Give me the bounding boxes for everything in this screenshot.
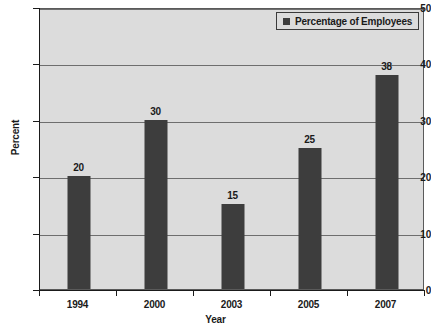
y-tick-mark <box>33 64 39 65</box>
y-axis-title: Percent <box>10 103 21 173</box>
y-tick-label: 0 <box>400 285 431 296</box>
x-tick-mark <box>39 291 40 296</box>
legend-label: Percentage of Employees <box>295 16 412 27</box>
bar-value-label: 20 <box>73 162 84 173</box>
bar[interactable] <box>67 176 90 289</box>
x-tick-label: 2005 <box>279 299 339 310</box>
bar-group: 38 <box>348 9 425 289</box>
bar[interactable] <box>221 204 244 289</box>
bar-value-label: 25 <box>304 134 315 145</box>
chart-legend: Percentage of Employees <box>276 12 419 30</box>
x-tick-label: 2007 <box>356 299 416 310</box>
y-tick-mark <box>33 177 39 178</box>
plot-area: 2030152538 <box>39 8 424 290</box>
bar[interactable] <box>144 120 167 289</box>
y-tick-mark <box>33 121 39 122</box>
x-tick-mark <box>424 291 425 296</box>
bars-layer: 2030152538 <box>40 9 423 289</box>
x-axis-line <box>39 290 425 291</box>
legend-swatch-icon <box>283 18 290 25</box>
x-tick-label: 2000 <box>125 299 185 310</box>
bar-chart: 2030152538 01020304050 Percent 199420002… <box>0 0 431 331</box>
x-tick-mark <box>116 291 117 296</box>
x-tick-label: 1994 <box>48 299 108 310</box>
bar-group: 15 <box>194 9 271 289</box>
bar-value-label: 30 <box>150 106 161 117</box>
bar[interactable] <box>375 75 398 289</box>
y-axis-line <box>39 8 40 291</box>
y-tick-label: 10 <box>400 228 431 239</box>
bar-group: 25 <box>271 9 348 289</box>
x-tick-mark <box>347 291 348 296</box>
y-tick-label: 40 <box>400 59 431 70</box>
bar-group: 20 <box>40 9 117 289</box>
y-tick-label: 20 <box>400 172 431 183</box>
bar[interactable] <box>298 148 321 289</box>
bar-value-label: 15 <box>227 190 238 201</box>
x-tick-mark <box>193 291 194 296</box>
bar-value-label: 38 <box>381 61 392 72</box>
x-tick-label: 2003 <box>202 299 262 310</box>
x-axis-title: Year <box>0 314 431 325</box>
y-tick-mark <box>33 234 39 235</box>
y-tick-label: 30 <box>400 115 431 126</box>
x-tick-mark <box>270 291 271 296</box>
y-tick-mark <box>33 8 39 9</box>
bar-group: 30 <box>117 9 194 289</box>
